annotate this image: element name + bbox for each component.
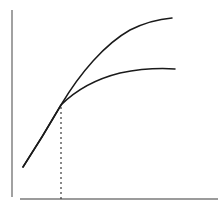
chart-canvas [0,0,223,211]
series-path-upper-curve [23,18,172,167]
series-path-lower-curve [23,69,175,167]
chart-container [0,0,223,211]
